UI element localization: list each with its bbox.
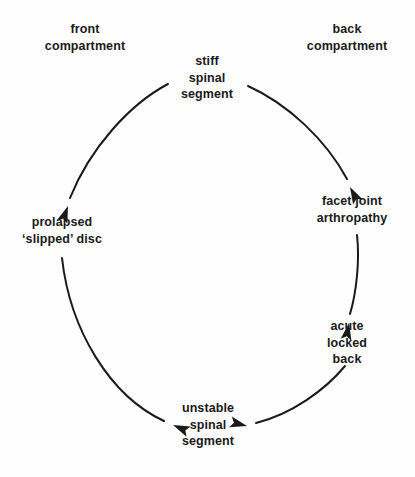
node-acute-locked-back: acute locked back [313,318,381,368]
edge-prolapsed-to-unstable [62,258,164,421]
header-back-compartment: back compartment [307,21,387,54]
node-unstable-spinal-segment: unstable spinal segment [182,400,234,450]
node-prolapsed-slipped-disc: prolapsed ‘slipped’ disc [22,214,102,247]
header-front-compartment: front compartment [45,21,125,54]
edge-stiff-to-prolapsed [70,84,168,198]
diagram-canvas: front compartment back compartment stiff… [0,0,415,477]
node-facet-joint-arthropathy: facet joint arthropathy [317,193,388,226]
edge-facet-to-acute [350,235,358,314]
edge-stiff-to-facet [248,86,347,179]
node-stiff-spinal-segment: stiff spinal segment [181,53,233,103]
edge-acute-to-unstable [256,366,345,423]
